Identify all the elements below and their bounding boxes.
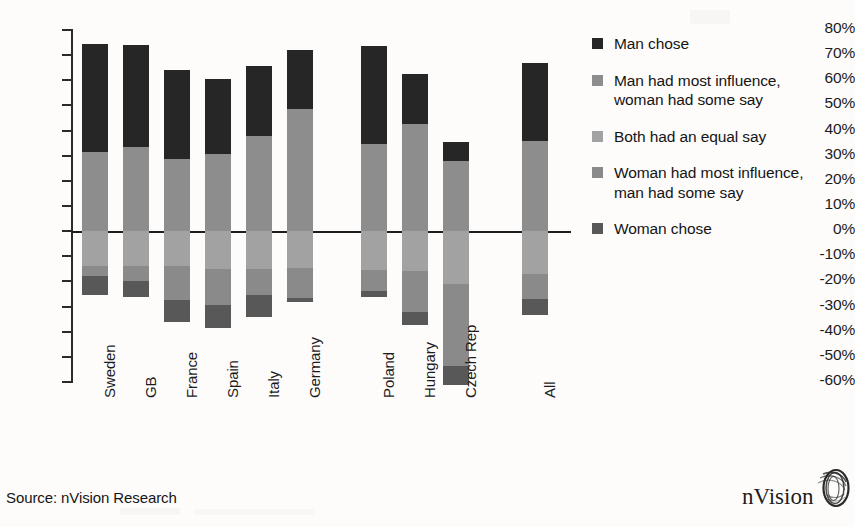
bar-segment: [205, 269, 231, 305]
bar-group: [361, 30, 387, 382]
bar-segment: [82, 44, 108, 152]
bar-group: [522, 30, 548, 382]
legend-swatch-icon: [592, 131, 603, 142]
bar-group: [246, 30, 272, 382]
x-axis-label: Hungary: [421, 342, 438, 398]
bar-segment: [361, 46, 387, 144]
y-axis-tick-label: -30%: [803, 296, 855, 314]
y-axis-tick: [62, 130, 72, 132]
bar-segment: [164, 300, 190, 321]
y-axis-tick: [62, 29, 72, 31]
bar-segment: [205, 231, 231, 269]
bar-segment: [402, 312, 428, 326]
bar-segment: [164, 159, 190, 231]
bar-segment: [522, 63, 548, 141]
bar-segment: [123, 45, 149, 147]
brand-logo: nVision: [742, 468, 850, 520]
bar-segment: [82, 231, 108, 266]
bar-segment: [205, 154, 231, 231]
x-axis-label: Sweden: [101, 344, 118, 398]
x-axis-label: Germany: [306, 337, 323, 398]
bar-segment: [164, 266, 190, 300]
y-axis-tick-label: -40%: [803, 321, 855, 339]
y-axis-tick: [62, 180, 72, 182]
y-axis-tick: [62, 306, 72, 308]
bar-segment: [246, 136, 272, 232]
bar-segment: [402, 124, 428, 231]
legend-item[interactable]: Woman had most influence, man had some s…: [592, 163, 842, 202]
legend-label: Man had most influence, woman had some s…: [614, 71, 822, 110]
bar-segment: [287, 109, 313, 231]
eye-swirl-icon: [816, 468, 850, 516]
legend-label: Man chose: [614, 34, 689, 54]
bar-segment: [522, 299, 548, 315]
y-axis-tick: [62, 356, 72, 358]
bar-segment: [443, 142, 469, 161]
chart-container: 80%70%60%50%40%30%20%10%0%-10%-20%-30%-4…: [0, 0, 855, 527]
bar-segment: [522, 141, 548, 232]
legend-swatch-icon: [592, 223, 603, 234]
legend-swatch-icon: [592, 75, 603, 86]
source-note: Source: nVision Research: [6, 489, 177, 506]
y-axis-tick: [62, 155, 72, 157]
scan-artifact: [195, 509, 315, 515]
bar-group: [82, 30, 108, 382]
bar-segment: [287, 50, 313, 109]
bar-segment: [123, 266, 149, 281]
legend-item[interactable]: Man had most influence, woman had some s…: [592, 71, 842, 110]
legend-swatch-icon: [592, 38, 603, 49]
x-axis-label: Czech Rep: [462, 325, 479, 398]
bar-segment: [287, 268, 313, 298]
bar-segment: [522, 274, 548, 299]
y-axis-tick: [62, 280, 72, 282]
chart-legend: Man choseMan had most influence, woman h…: [592, 34, 842, 256]
bar-group: [123, 30, 149, 382]
y-axis-tick-label: -60%: [803, 371, 855, 389]
bar-segment: [82, 152, 108, 231]
bar-segment: [123, 231, 149, 266]
bar-segment: [361, 231, 387, 270]
bar-segment: [82, 266, 108, 276]
bar-segment: [123, 147, 149, 231]
bar-segment: [82, 276, 108, 295]
y-axis-tick: [62, 255, 72, 257]
y-axis-tick-label: -50%: [803, 346, 855, 364]
x-axis-label: All: [541, 382, 558, 398]
bar-segment: [164, 70, 190, 159]
bar-segment: [361, 144, 387, 231]
bar-segment: [443, 231, 469, 284]
x-axis-label: Italy: [265, 371, 282, 398]
scan-artifact: [690, 10, 730, 24]
bar-segment: [522, 231, 548, 274]
legend-label: Woman chose: [614, 219, 712, 239]
legend-item[interactable]: Man chose: [592, 34, 842, 54]
y-axis-tick: [62, 331, 72, 333]
bar-segment: [402, 231, 428, 271]
scan-artifact: [120, 508, 180, 515]
bar-group: [402, 30, 428, 382]
y-axis-tick-label: -20%: [803, 270, 855, 288]
bar-segment: [246, 295, 272, 316]
bar-segment: [246, 269, 272, 295]
bar-segment: [402, 271, 428, 311]
legend-item[interactable]: Woman chose: [592, 219, 842, 239]
bar-group: [287, 30, 313, 382]
legend-swatch-icon: [592, 167, 603, 178]
bar-segment: [246, 231, 272, 269]
bar-segment: [246, 66, 272, 135]
bar-segment: [287, 231, 313, 267]
bar-segment: [361, 291, 387, 296]
legend-label: Both had an equal say: [614, 127, 766, 147]
y-axis-tick: [62, 79, 72, 81]
brand-name: nVision: [742, 484, 813, 510]
y-axis-tick: [62, 381, 72, 383]
x-axis-label: Spain: [224, 360, 241, 398]
legend-item[interactable]: Both had an equal say: [592, 127, 842, 147]
bar-segment: [402, 74, 428, 124]
bar-group: [205, 30, 231, 382]
bar-segment: [123, 281, 149, 296]
y-axis-tick: [62, 54, 72, 56]
plot-area: [72, 30, 572, 382]
bar-segment: [287, 298, 313, 302]
x-axis-label: France: [183, 352, 200, 398]
